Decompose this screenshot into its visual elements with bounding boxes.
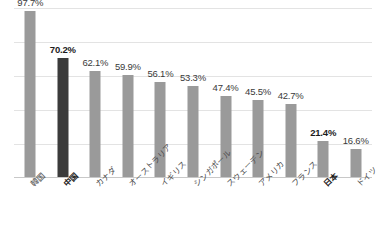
bar[interactable]	[90, 71, 101, 177]
bar[interactable]	[318, 141, 329, 177]
bar[interactable]	[25, 11, 36, 177]
category-slot: アメリカ	[242, 179, 275, 241]
category-slot: スウェーデン	[209, 179, 242, 241]
bar-value-label: 47.4%	[213, 82, 239, 93]
bar-slot: 70.2%	[47, 7, 80, 177]
bar-value-label: 56.1%	[147, 68, 173, 79]
bar-slot: 16.6%	[339, 7, 372, 177]
bar-value-label: 21.4%	[310, 127, 336, 138]
bar-value-label: 97.7%	[17, 0, 43, 8]
bar[interactable]	[57, 58, 68, 177]
bar-value-label: 59.9%	[115, 61, 141, 72]
bar-slot: 53.3%	[177, 7, 210, 177]
bar-value-label: 16.6%	[343, 135, 369, 146]
plot-area: 97.7%70.2%62.1%59.9%56.1%53.3%47.4%45.5%…	[14, 8, 372, 178]
category-slot: 韓国	[14, 179, 47, 241]
category-slot: 日本	[307, 179, 340, 241]
bar[interactable]	[187, 86, 198, 177]
bar[interactable]	[122, 75, 133, 177]
bar-value-label: 45.5%	[245, 86, 271, 97]
bar-slot: 59.9%	[112, 7, 145, 177]
category-slot: オーストラリア	[112, 179, 145, 241]
category-slot: フランス	[274, 179, 307, 241]
bar-slot: 42.7%	[274, 7, 307, 177]
bar-value-label: 42.7%	[278, 90, 304, 101]
bar-value-label: 53.3%	[180, 72, 206, 83]
category-slot: イギリス	[144, 179, 177, 241]
bar-value-label: 70.2%	[50, 44, 76, 55]
category-slot: シンガポール	[177, 179, 210, 241]
category-slot: 中国	[47, 179, 80, 241]
bar-value-label: 62.1%	[82, 57, 108, 68]
bar-slot: 62.1%	[79, 7, 112, 177]
bar-slot: 21.4%	[307, 7, 340, 177]
bar[interactable]	[285, 104, 296, 177]
bars-group: 97.7%70.2%62.1%59.9%56.1%53.3%47.4%45.5%…	[14, 8, 372, 178]
bar-chart: 97.7%70.2%62.1%59.9%56.1%53.3%47.4%45.5%…	[0, 0, 383, 242]
bar[interactable]	[350, 149, 361, 177]
category-slot: カナダ	[79, 179, 112, 241]
bar-slot: 97.7%	[14, 7, 47, 177]
category-slot: ドイツ	[339, 179, 372, 241]
category-axis-labels: 韓国中国カナダオーストラリアイギリスシンガポールスウェーデンアメリカフランス日本…	[14, 179, 372, 241]
